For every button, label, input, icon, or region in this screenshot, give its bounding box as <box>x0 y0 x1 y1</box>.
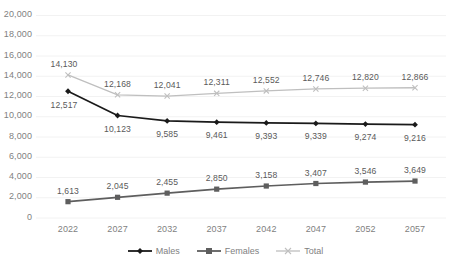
data-point-marker <box>214 119 220 125</box>
legend-label: Females <box>225 246 260 256</box>
data-label: 3,649 <box>391 165 439 175</box>
data-label: 12,746 <box>292 73 340 83</box>
y-axis-tick-label: 10,000 <box>0 110 32 120</box>
y-axis-tick-label: 2,000 <box>0 191 32 201</box>
legend-item-total[interactable]: Total <box>275 246 323 256</box>
y-axis-tick-label: 0 <box>0 212 32 222</box>
data-point-marker <box>65 88 71 94</box>
data-label: 9,339 <box>292 131 340 141</box>
data-label: 9,461 <box>193 130 241 140</box>
y-axis-tick-label: 12,000 <box>0 90 32 100</box>
data-label: 12,517 <box>40 100 88 110</box>
data-point-marker <box>65 199 70 204</box>
data-point-marker <box>313 181 318 186</box>
data-label: 3,407 <box>292 168 340 178</box>
legend-item-males[interactable]: Males <box>127 246 180 256</box>
data-label: 12,866 <box>391 72 439 82</box>
data-label: 12,311 <box>193 77 241 87</box>
data-label: 2,045 <box>94 181 142 191</box>
data-label: 14,130 <box>40 59 88 69</box>
legend-label: Males <box>156 246 180 256</box>
data-point-marker <box>115 113 121 119</box>
data-point-marker <box>165 191 170 196</box>
data-point-marker <box>263 120 269 126</box>
x-axis-tick-label: 2057 <box>390 224 440 234</box>
x-axis-tick-label: 2027 <box>93 224 143 234</box>
x-axis-tick-label: 2042 <box>241 224 291 234</box>
data-label: 2,850 <box>193 173 241 183</box>
data-point-marker <box>264 183 269 188</box>
data-point-marker <box>164 118 170 124</box>
data-label: 12,168 <box>94 79 142 89</box>
data-label: 12,041 <box>143 80 191 90</box>
x-axis-tick-label: 2032 <box>142 224 192 234</box>
y-axis-tick-label: 14,000 <box>0 70 32 80</box>
y-axis-tick-label: 18,000 <box>0 29 32 39</box>
data-point-marker <box>363 179 368 184</box>
data-label: 12,552 <box>242 75 290 85</box>
data-label: 10,123 <box>94 124 142 134</box>
data-point-marker <box>363 121 369 127</box>
data-label: 9,216 <box>391 133 439 143</box>
legend-label: Total <box>304 246 323 256</box>
data-label: 12,820 <box>341 72 389 82</box>
x-axis-tick-label: 2022 <box>43 224 93 234</box>
data-label: 3,158 <box>242 170 290 180</box>
y-axis-tick-label: 6,000 <box>0 151 32 161</box>
data-label: 2,455 <box>143 177 191 187</box>
chart-legend: MalesFemalesTotal <box>0 242 450 260</box>
data-point-marker <box>412 178 417 183</box>
data-point-marker <box>214 187 219 192</box>
data-point-marker <box>115 195 120 200</box>
y-axis-tick-label: 20,000 <box>0 9 32 19</box>
x-axis-tick-label: 2047 <box>291 224 341 234</box>
legend-marker-diamond-icon <box>127 246 153 256</box>
y-axis-tick-label: 16,000 <box>0 50 32 60</box>
data-label: 3,546 <box>341 166 389 176</box>
x-axis-tick-label: 2052 <box>340 224 390 234</box>
data-label: 9,274 <box>341 132 389 142</box>
y-axis-tick-label: 8,000 <box>0 131 32 141</box>
data-label: 1,613 <box>44 186 92 196</box>
legend-marker-cross-icon <box>275 246 301 256</box>
y-axis-tick-label: 4,000 <box>0 171 32 181</box>
x-axis-tick-label: 2037 <box>192 224 242 234</box>
data-label: 9,585 <box>143 129 191 139</box>
data-point-marker <box>412 122 418 128</box>
data-label: 9,393 <box>242 131 290 141</box>
data-point-marker <box>313 121 319 127</box>
legend-item-females[interactable]: Females <box>196 246 260 256</box>
data-point-marker <box>65 72 70 77</box>
legend-marker-square-icon <box>196 246 222 256</box>
line-chart: 02,0004,0006,0008,00010,00012,00014,0001… <box>0 0 450 265</box>
